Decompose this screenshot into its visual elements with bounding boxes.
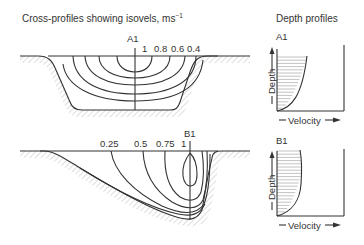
velocity-hatch-a bbox=[277, 57, 307, 108]
profile-a1-label: A1 bbox=[276, 31, 288, 42]
section-a1-label: A1 bbox=[127, 33, 139, 44]
isovel-label: 0.8 bbox=[154, 43, 167, 54]
velocity-arrow-right-icon bbox=[333, 118, 341, 123]
isovel-label: 0.75 bbox=[156, 138, 175, 149]
isovel-label: 0.4 bbox=[187, 43, 200, 54]
isovel-label: 1 bbox=[142, 43, 147, 54]
cross-section-b1: B1 0.25 0.5 0.75 1 bbox=[20, 128, 250, 226]
cross-section-a1: A1 1 0.8 0.6 0.4 bbox=[20, 33, 250, 117]
isovel-b-0.5 bbox=[143, 151, 207, 208]
profile-b1-label: B1 bbox=[276, 135, 288, 146]
velocity-hatch-b bbox=[277, 151, 301, 215]
depth-arrow-up-icon bbox=[270, 47, 275, 54]
velocity-axis-label-b: Velocity bbox=[288, 220, 321, 231]
cross-profiles-title: Cross-profiles showing isovels, ms−1 bbox=[22, 12, 183, 24]
velocity-curve-a bbox=[277, 56, 307, 111]
isovel-label: 0.5 bbox=[134, 138, 147, 149]
depth-arrow-up-icon bbox=[270, 151, 275, 158]
depth-axis-label-b: Depth bbox=[266, 175, 277, 200]
depth-profile-b1: B1 Depth Velocity bbox=[266, 135, 344, 231]
isovel-diagram: Cross-profiles showing isovels, ms−1 Dep… bbox=[0, 0, 364, 245]
depth-axis-label-a: Depth bbox=[266, 69, 277, 94]
depth-profiles-title: Depth profiles bbox=[276, 13, 338, 24]
isovel-b-0.75 bbox=[165, 151, 204, 200]
velocity-axis-label-a: Velocity bbox=[288, 115, 321, 126]
depth-profile-a1: A1 Depth Velocity bbox=[266, 31, 344, 126]
isovel-label: 0.25 bbox=[100, 138, 119, 149]
isovel-label: 1 bbox=[181, 138, 186, 149]
velocity-arrow-right-icon bbox=[333, 223, 341, 228]
isovel-label: 0.6 bbox=[171, 43, 184, 54]
